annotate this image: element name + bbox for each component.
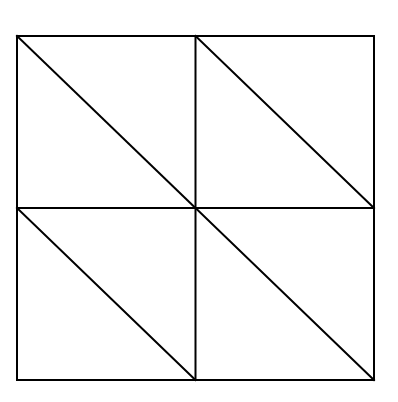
grid-diagram — [0, 0, 398, 402]
